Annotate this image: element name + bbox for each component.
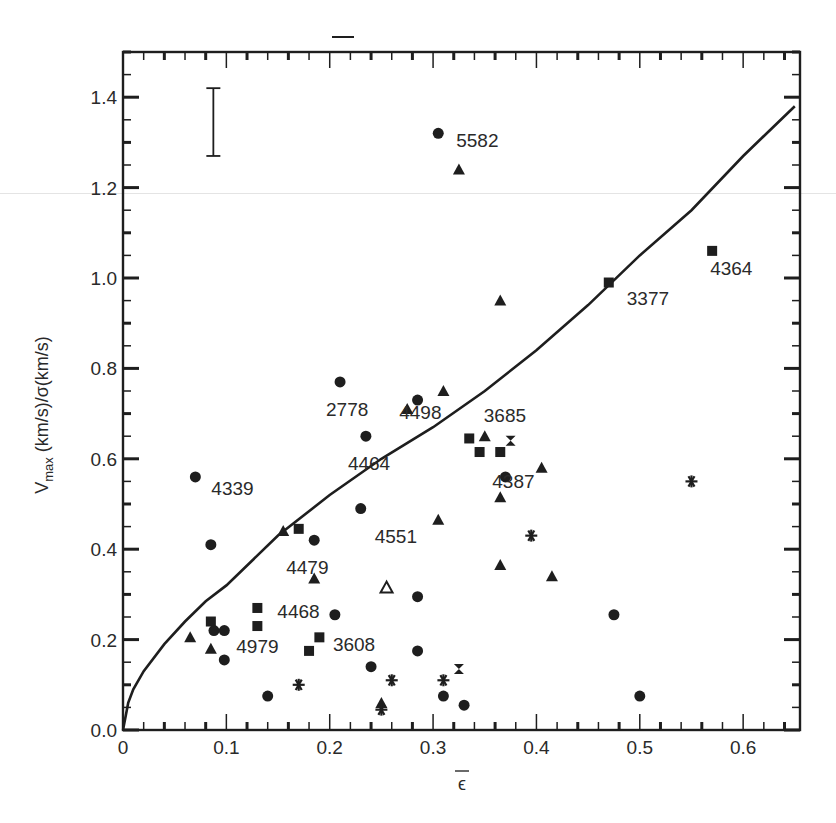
- point-label: 4364: [710, 258, 753, 279]
- x-tick-label: 0: [118, 737, 129, 758]
- model-curve: [123, 106, 795, 730]
- circle-marker: [335, 376, 346, 387]
- circle-marker: [608, 609, 619, 620]
- point-label: 3377: [627, 288, 669, 309]
- point-label: 5582: [456, 130, 498, 151]
- y-tick-label: 1.0: [91, 268, 117, 289]
- triangle-marker: [437, 385, 449, 396]
- x-tick-label: 0.3: [420, 737, 446, 758]
- circle-marker: [329, 609, 340, 620]
- y-title-rest: (km/s)/σ(km/s): [32, 336, 52, 457]
- point-label: 4551: [375, 526, 417, 547]
- circle-marker: [360, 431, 371, 442]
- circle-marker: [634, 691, 645, 702]
- x-tick-label: 0.2: [317, 737, 343, 758]
- point-label: 4498: [399, 402, 441, 423]
- y-tick-label: 0.6: [91, 449, 117, 470]
- hourglass-marker: [506, 436, 516, 446]
- triangle-marker: [205, 643, 217, 654]
- triangle-marker: [453, 164, 465, 175]
- circle-marker: [459, 700, 470, 711]
- triangle-marker: [494, 295, 506, 306]
- point-label: 4979: [236, 636, 278, 657]
- point-label: 3608: [333, 634, 375, 655]
- asterisk-marker: [525, 530, 537, 542]
- triangle-marker: [536, 462, 548, 473]
- square-marker: [304, 646, 314, 656]
- x-axis: 00.10.20.30.40.50.6: [118, 52, 785, 758]
- square-marker: [252, 603, 262, 613]
- point-label: 4464: [348, 453, 391, 474]
- data-points: [184, 128, 717, 716]
- circle-marker: [433, 128, 444, 139]
- hourglass-marker: [454, 664, 464, 674]
- point-label: 4479: [286, 557, 328, 578]
- point-label: 4387: [492, 471, 534, 492]
- triangle-marker: [546, 570, 558, 581]
- y-axis: 0.00.20.40.60.81.01.21.4: [91, 52, 800, 741]
- triangle-marker: [432, 514, 444, 525]
- square-marker: [294, 524, 304, 534]
- y-tick-label: 0.4: [91, 539, 118, 560]
- scatter-chart: 00.10.20.30.40.50.6 0.00.20.40.60.81.01.…: [0, 0, 836, 823]
- x-tick-label: 0.4: [523, 737, 550, 758]
- circle-marker: [219, 654, 230, 665]
- circle-marker: [309, 535, 320, 546]
- y-tick-label: 1.4: [91, 87, 118, 108]
- square-marker: [707, 246, 717, 256]
- square-marker: [252, 621, 262, 631]
- circle-marker: [219, 625, 230, 636]
- y-title-subscript: max: [41, 457, 56, 482]
- x-tick-label: 0.1: [213, 737, 239, 758]
- circle-marker: [355, 503, 366, 514]
- square-marker: [475, 447, 485, 457]
- circle-marker: [438, 691, 449, 702]
- y-title-v: V: [32, 482, 52, 494]
- x-axis-title: ϵ: [458, 774, 466, 794]
- circle-marker: [190, 471, 201, 482]
- circle-marker: [412, 591, 423, 602]
- circle-marker: [208, 625, 219, 636]
- x-tick-label: 0.6: [730, 737, 756, 758]
- point-label: 2778: [326, 399, 368, 420]
- asterisk-marker: [437, 674, 449, 686]
- square-marker: [604, 278, 614, 288]
- square-marker: [206, 617, 216, 627]
- triangle-marker: [494, 491, 506, 502]
- asterisk-marker: [386, 674, 398, 686]
- triangle-marker: [479, 430, 491, 441]
- y-axis-title: Vmax (km/s)/σ(km/s): [32, 336, 56, 494]
- square-marker: [495, 447, 505, 457]
- square-marker: [464, 433, 474, 443]
- y-tick-label: 1.2: [91, 178, 117, 199]
- circle-marker: [205, 539, 216, 550]
- point-label: 4468: [277, 601, 319, 622]
- triangle-marker: [184, 631, 196, 642]
- circle-marker: [412, 645, 423, 656]
- square-marker: [314, 632, 324, 642]
- asterisk-marker: [685, 475, 697, 487]
- circle-marker: [366, 661, 377, 672]
- circle-marker: [262, 691, 273, 702]
- error-bar-legend: [206, 88, 220, 156]
- point-label: 3685: [484, 405, 526, 426]
- x-tick-label: 0.5: [627, 737, 653, 758]
- y-tick-label: 0.8: [91, 358, 117, 379]
- asterisk-marker: [293, 679, 305, 691]
- open-triangle-marker: [381, 582, 393, 593]
- triangle-marker: [494, 559, 506, 570]
- y-tick-label: 0.2: [91, 630, 117, 651]
- point-label: 4339: [211, 478, 253, 499]
- y-tick-label: 0.0: [91, 720, 117, 741]
